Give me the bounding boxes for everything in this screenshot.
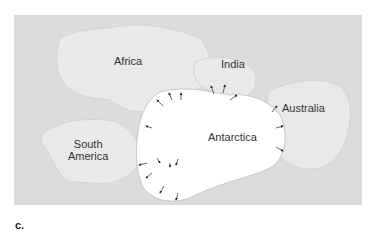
gondwana-map xyxy=(0,0,368,234)
label-australia: Australia xyxy=(282,102,325,114)
label-south-america-line1: South xyxy=(68,138,108,150)
label-africa: Africa xyxy=(114,55,142,67)
label-south-america: South America xyxy=(68,138,108,162)
label-south-america-line2: America xyxy=(68,150,108,162)
label-india: India xyxy=(221,58,245,70)
antarctica-ice-sheet xyxy=(136,89,285,201)
label-antarctica: Antarctica xyxy=(208,131,257,143)
figure-label: c. xyxy=(15,219,24,231)
